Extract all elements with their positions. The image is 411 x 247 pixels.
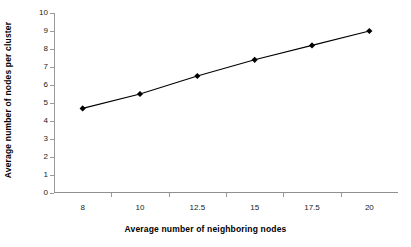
data-series-line: [54, 13, 398, 193]
x-tick-mark: [226, 193, 227, 197]
y-tick-label: 1: [44, 169, 48, 180]
plot-area: 012345678910 81012.51517.520: [54, 13, 398, 193]
x-tick-label-17.5: 17.5: [304, 202, 320, 213]
y-tick-label: 6: [44, 79, 48, 90]
x-tick-mark: [283, 193, 284, 197]
y-tick-mark: [50, 193, 54, 194]
y-tick-label: 0: [44, 187, 48, 198]
series-line: [83, 31, 370, 108]
y-tick-label: 4: [44, 115, 48, 126]
y-axis-title-text: Average number of nodes per cluster: [3, 22, 13, 178]
y-tick-label: 9: [44, 25, 48, 36]
x-tick-label-10: 10: [136, 202, 145, 213]
data-point-marker-17.5: [309, 42, 315, 48]
x-tick-mark: [341, 193, 342, 197]
x-tick-label-12.5: 12.5: [190, 202, 206, 213]
y-tick-label: 5: [44, 97, 48, 108]
data-point-marker-20: [366, 28, 372, 34]
y-tick-0: 0: [54, 193, 55, 194]
data-point-marker-10: [137, 91, 143, 97]
x-tick-mark: [169, 193, 170, 197]
x-axis-title: Average number of neighboring nodes: [0, 224, 411, 234]
data-point-marker-8: [80, 105, 86, 111]
x-tick-mark: [111, 193, 112, 197]
x-tick-label-8: 8: [80, 202, 84, 213]
y-tick-label: 8: [44, 43, 48, 54]
x-tick-label-15: 15: [250, 202, 259, 213]
x-tick-label-20: 20: [365, 202, 374, 213]
y-tick-label: 10: [39, 7, 48, 18]
y-tick-label: 7: [44, 61, 48, 72]
y-axis-title: Average number of nodes per cluster: [0, 0, 16, 200]
x-axis-title-text: Average number of neighboring nodes: [125, 224, 287, 234]
data-point-marker-15: [252, 57, 258, 63]
chart-figure: Average number of nodes per cluster 0123…: [0, 0, 411, 247]
y-tick-label: 2: [44, 151, 48, 162]
y-tick-label: 3: [44, 133, 48, 144]
data-point-marker-12.5: [194, 73, 200, 79]
